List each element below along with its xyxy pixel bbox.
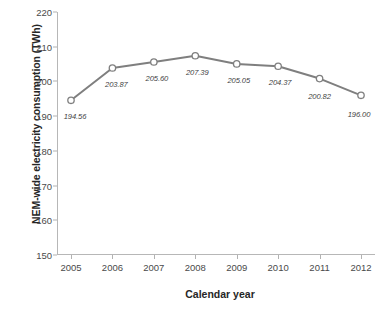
x-tick-mark [195,255,196,259]
data-point-marker [68,97,74,103]
x-tick-label: 2007 [143,262,164,273]
x-tick-mark [278,255,279,259]
data-point-label: 194.56 [64,112,87,121]
data-point-label: 205.05 [227,76,250,85]
x-tick-label: 2008 [185,262,206,273]
data-point-label: 207.39 [186,68,209,77]
data-point-label: 204.37 [269,78,292,87]
data-point-label: 203.87 [105,80,128,89]
x-tick-label: 2012 [350,262,371,273]
y-tick-label: 160 [36,215,52,226]
x-tick-label: 2011 [309,262,329,273]
y-tick-label: 190 [36,111,52,122]
x-tick-mark [112,255,113,259]
line-chart: NEM-wide electricity consumption (TWh) 2… [0,0,387,314]
x-tick-mark [320,255,321,259]
y-axis-title: NEM-wide electricity consumption (TWh) [30,4,42,244]
x-tick-label: 2009 [226,262,247,273]
x-tick-mark [361,255,362,259]
data-point-marker [275,63,281,69]
plot-area: 220210200190180170160150 200520062007200… [57,12,375,255]
x-axis-title: Calendar year [60,288,380,300]
y-tick-label: 180 [36,145,52,156]
x-tick-mark [71,255,72,259]
data-series [57,12,375,255]
data-point-label: 196.00 [348,110,371,119]
data-point-marker [151,59,157,65]
y-tick-label: 200 [36,76,52,87]
x-tick-label: 2005 [60,262,81,273]
data-point-marker [316,75,322,81]
x-tick-mark [154,255,155,259]
x-tick-label: 2010 [268,262,289,273]
data-point-marker [192,53,198,59]
data-point-label: 200.82 [308,92,331,101]
data-point-label: 205.60 [146,74,169,83]
y-tick-label: 220 [36,7,52,18]
data-point-marker [109,65,115,71]
data-point-marker [358,92,364,98]
data-point-marker [234,61,240,67]
x-tick-label: 2006 [102,262,123,273]
x-tick-mark [237,255,238,259]
y-tick-label: 210 [36,41,52,52]
y-tick-label: 170 [36,180,52,191]
y-tick-label: 150 [36,250,52,261]
